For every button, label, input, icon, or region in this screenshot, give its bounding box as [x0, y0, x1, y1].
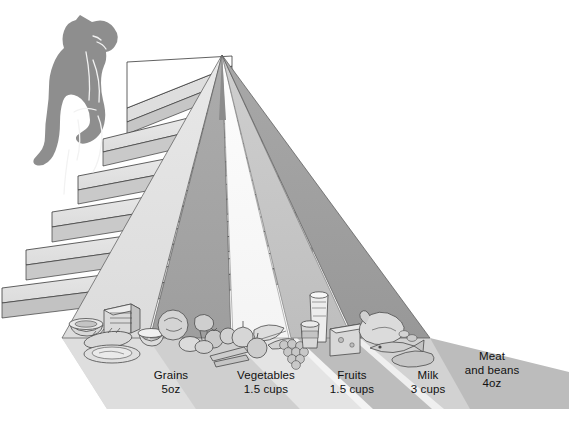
person-climbing-stairs [33, 15, 117, 194]
ground-shadow-fan [62, 338, 569, 409]
pyramid-illustration [0, 0, 569, 430]
pyramid-diagram-canvas: Grains 5oz Vegetables 1.5 cups Fruits 1.… [0, 0, 569, 430]
